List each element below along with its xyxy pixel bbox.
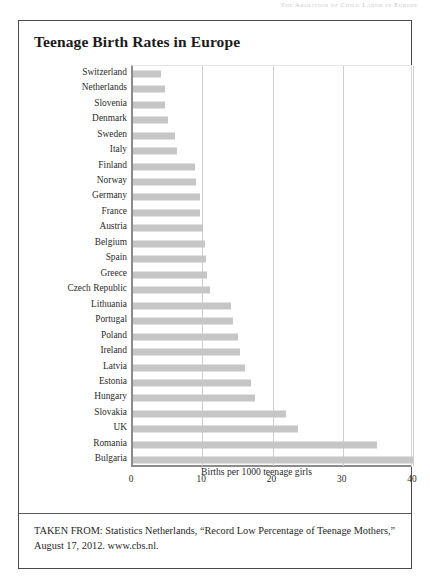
category-label: Portugal — [95, 315, 127, 324]
category-label: Italy — [110, 145, 127, 154]
bar — [133, 318, 233, 325]
category-label: Austria — [99, 223, 127, 232]
category-label: Denmark — [92, 114, 127, 123]
bar — [133, 287, 210, 294]
category-label: Spain — [106, 254, 127, 263]
category-label: Slovakia — [94, 408, 127, 417]
category-label: Sweden — [97, 130, 127, 139]
category-label: Bulgaria — [95, 455, 127, 464]
bar — [133, 209, 200, 216]
category-label: Hungary — [94, 393, 127, 402]
bar — [133, 101, 165, 108]
bar — [133, 364, 245, 371]
category-label: Slovenia — [94, 99, 127, 108]
bar — [133, 395, 255, 402]
gridline-20 — [273, 66, 274, 466]
category-label: Estonia — [99, 377, 127, 386]
category-label: Finland — [98, 161, 127, 170]
bar — [133, 117, 168, 124]
category-label: Norway — [97, 176, 127, 185]
gridline-40 — [413, 66, 414, 466]
category-label: Lithuania — [91, 300, 127, 309]
bar — [133, 302, 231, 309]
category-label: Ireland — [100, 346, 127, 355]
category-label: UK — [113, 424, 127, 433]
x-axis-title: Births per 1000 teenage girls — [116, 466, 397, 477]
category-label: Poland — [101, 331, 127, 340]
bar — [133, 426, 298, 433]
bar — [133, 441, 377, 448]
plot-frame — [131, 65, 412, 467]
bar — [133, 410, 286, 417]
bar — [133, 256, 206, 263]
category-label: Belgium — [95, 238, 127, 247]
y-axis-line — [132, 66, 133, 466]
bar — [133, 163, 195, 170]
bar — [133, 194, 200, 201]
bar — [133, 178, 196, 185]
category-label: Romania — [93, 439, 127, 448]
category-label: Czech Republic — [67, 284, 127, 293]
gridline-10 — [202, 66, 203, 466]
bar — [133, 148, 177, 155]
category-axis-labels: SwitzerlandNetherlandsSloveniaDenmarkSwe… — [34, 65, 131, 467]
category-label: Netherlands — [82, 83, 127, 92]
bar — [133, 132, 175, 139]
bar — [133, 379, 251, 386]
category-label: Greece — [100, 269, 127, 278]
category-label: France — [101, 207, 127, 216]
bar — [133, 457, 413, 464]
bar — [133, 349, 240, 356]
bar — [133, 70, 161, 77]
category-label: Switzerland — [82, 68, 127, 77]
x-tick-label: 40 — [407, 474, 416, 484]
chart-plot-area: SwitzerlandNetherlandsSloveniaDenmarkSwe… — [34, 65, 397, 485]
figure-caption: TAKEN FROM: Statistics Netherlands, “Rec… — [34, 524, 397, 554]
caption-divider — [19, 513, 411, 514]
gridline-30 — [343, 66, 344, 466]
bar — [133, 86, 165, 93]
bar — [133, 333, 238, 340]
figure-box: Teenage Birth Rates in Europe Switzerlan… — [18, 20, 412, 569]
bar — [133, 271, 207, 278]
category-label: Latvia — [103, 362, 127, 371]
bar — [133, 225, 203, 232]
running-page-header: The Abolition of Child Labor in Europe — [0, 1, 430, 8]
category-label: Germany — [92, 192, 127, 201]
bar — [133, 240, 205, 247]
chart-title: Teenage Birth Rates in Europe — [34, 33, 240, 51]
